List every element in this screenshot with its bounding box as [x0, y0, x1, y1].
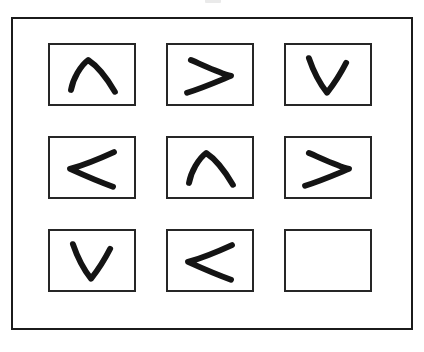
up-chevron-icon: [168, 138, 252, 197]
puzzle-canvas: [0, 0, 424, 352]
right-chevron-icon: [168, 45, 252, 104]
matrix-cell[interactable]: [284, 136, 372, 199]
up-chevron-icon: [50, 45, 134, 104]
matrix-cell[interactable]: [166, 43, 254, 106]
matrix-cell[interactable]: [48, 136, 136, 199]
matrix-cell[interactable]: [166, 136, 254, 199]
matrix-cell[interactable]: [48, 43, 136, 106]
left-chevron-icon: [168, 231, 252, 290]
matrix-cell[interactable]: [284, 43, 372, 106]
matrix-cell[interactable]: [48, 229, 136, 292]
down-chevron-icon: [50, 231, 134, 290]
matrix-cell[interactable]: [166, 229, 254, 292]
down-chevron-icon: [286, 45, 370, 104]
puzzle-outer-frame: [11, 17, 413, 330]
matrix-grid: [48, 43, 380, 309]
matrix-cell-empty[interactable]: [284, 229, 372, 292]
clipped-mark-top-edge-icon: [205, 0, 221, 3]
right-chevron-icon: [286, 138, 370, 197]
left-chevron-icon: [50, 138, 134, 197]
